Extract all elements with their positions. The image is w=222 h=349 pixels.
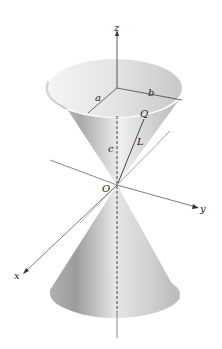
y-axis-arrow-icon <box>192 204 199 209</box>
point-q-label: Q <box>140 108 148 119</box>
lower-cone-base <box>50 272 180 316</box>
height-c-label: c <box>108 143 114 154</box>
y-axis <box>117 185 196 207</box>
origin-label: O <box>102 183 110 194</box>
z-axis-label: z <box>113 22 120 33</box>
upper-cone-opening <box>48 59 182 117</box>
y-axis-label: y <box>199 203 206 214</box>
x-axis-label: x <box>14 270 20 281</box>
slant-l-label: L <box>136 136 144 147</box>
radius-a-label: a <box>95 92 101 103</box>
radius-b-label: b <box>148 87 154 98</box>
double-cone-diagram: z y x O a b Q L c <box>0 0 222 349</box>
